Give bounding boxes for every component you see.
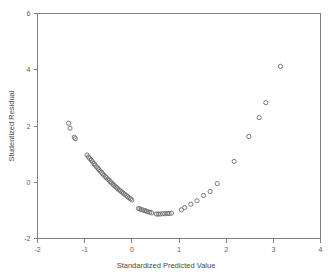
- x-axis-title: Standardized Predicted Value: [117, 261, 216, 270]
- data-point: [67, 121, 71, 125]
- data-point: [189, 202, 193, 206]
- x-axis-ticks: -2-101234: [34, 239, 322, 253]
- y-tick-label: 6: [27, 10, 31, 17]
- x-tick-label: 0: [130, 246, 134, 253]
- data-point: [247, 134, 251, 138]
- data-point: [257, 115, 261, 119]
- data-point: [201, 193, 205, 197]
- data-point: [208, 189, 212, 193]
- scatter-plot-figure: -2-101234 -20246 Standardized Predicted …: [0, 0, 333, 276]
- data-point-layer: [67, 64, 283, 216]
- x-tick-label: 1: [177, 246, 181, 253]
- y-tick-label: 4: [27, 66, 31, 73]
- x-tick-label: 2: [224, 246, 228, 253]
- data-point: [195, 199, 199, 203]
- data-point: [232, 159, 236, 163]
- y-tick-label: 2: [27, 123, 31, 130]
- plot-canvas: -2-101234 -20246 Standardized Predicted …: [0, 0, 333, 276]
- x-tick-label: -2: [34, 246, 40, 253]
- y-tick-label: -2: [24, 235, 30, 242]
- y-tick-label: 0: [27, 179, 31, 186]
- x-tick-label: -1: [82, 246, 88, 253]
- plot-frame: [38, 14, 321, 239]
- data-point: [183, 205, 187, 209]
- y-axis-title: Studentized Residual: [7, 90, 16, 161]
- data-point: [264, 101, 268, 105]
- x-tick-label: 4: [319, 246, 323, 253]
- y-axis-ticks: -20246: [24, 10, 37, 242]
- data-point: [68, 126, 72, 130]
- data-point: [215, 182, 219, 186]
- x-tick-label: 3: [271, 246, 275, 253]
- data-point: [278, 64, 282, 68]
